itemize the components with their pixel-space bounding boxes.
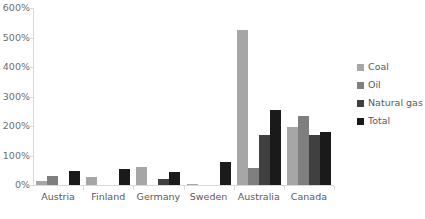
bar: [187, 184, 198, 185]
x-tick-mark: [184, 186, 185, 190]
x-tick-mark: [334, 186, 335, 190]
legend-item-natural-gas[interactable]: Natural gas: [357, 94, 425, 112]
bar-group-bars: [184, 8, 234, 185]
bar-group: [284, 8, 334, 185]
y-tick-label: 400%: [0, 62, 30, 72]
legend-label: Total: [368, 116, 390, 126]
bar-group: [133, 8, 183, 185]
x-category-label: Canada: [284, 192, 334, 202]
bar: [287, 127, 298, 185]
bar: [86, 177, 97, 185]
bar-group-bars: [83, 8, 133, 185]
legend-swatch-icon: [357, 64, 364, 71]
legend-item-coal[interactable]: Coal: [357, 58, 425, 76]
legend-swatch-icon: [357, 118, 364, 125]
y-tick-label: 100%: [0, 151, 30, 161]
bar: [119, 169, 130, 185]
legend-item-oil[interactable]: Oil: [357, 76, 425, 94]
y-tick-label: 300%: [0, 92, 30, 102]
bar: [158, 179, 169, 185]
x-category-label: Germany: [133, 192, 183, 202]
legend-item-total[interactable]: Total: [357, 112, 425, 130]
bar: [259, 135, 270, 185]
bar-group: [83, 8, 133, 185]
bar-group: [184, 8, 234, 185]
x-category-label: Finland: [83, 192, 133, 202]
legend-label: Natural gas: [368, 98, 423, 108]
chart-legend: CoalOilNatural gasTotal: [357, 58, 425, 130]
legend-label: Coal: [368, 62, 389, 72]
bar: [298, 116, 309, 185]
bar-group-bars: [33, 8, 83, 185]
legend-swatch-icon: [357, 82, 364, 89]
x-category-label: Sweden: [184, 192, 234, 202]
bar-group: [33, 8, 83, 185]
x-tick-mark: [83, 186, 84, 190]
legend-label: Oil: [368, 80, 381, 90]
legend-swatch-icon: [357, 100, 364, 107]
bar: [169, 172, 180, 185]
bar: [320, 132, 331, 185]
bar: [136, 167, 147, 185]
y-tick-label: 200%: [0, 121, 30, 131]
bar-group-bars: [234, 8, 284, 185]
bar: [309, 135, 320, 185]
y-tick-label: 0%: [0, 180, 30, 190]
y-tick-mark: [29, 185, 33, 186]
x-category-label: Austria: [33, 192, 83, 202]
bar: [47, 176, 58, 185]
x-tick-mark: [133, 186, 134, 190]
x-category-label: Australia: [234, 192, 284, 202]
bar: [36, 181, 47, 185]
bar-group: [234, 8, 284, 185]
bar: [248, 168, 259, 185]
x-tick-mark: [284, 186, 285, 190]
y-axis-labels: 0%100%200%300%400%500%600%: [0, 0, 30, 219]
bar: [220, 162, 231, 185]
bar: [237, 30, 248, 185]
y-tick-label: 600%: [0, 3, 30, 13]
x-tick-mark: [234, 186, 235, 190]
bar: [270, 110, 281, 185]
y-tick-label: 500%: [0, 33, 30, 43]
bar: [69, 171, 80, 185]
bar-group-bars: [133, 8, 183, 185]
bar-chart: 0%100%200%300%400%500%600% AustriaFinlan…: [0, 0, 425, 219]
bar-group-bars: [284, 8, 334, 185]
